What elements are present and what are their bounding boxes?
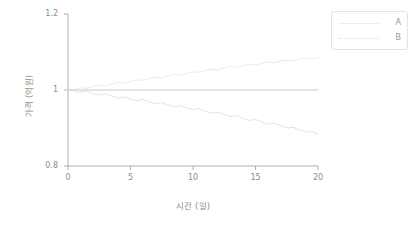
legend-label-b: B bbox=[396, 33, 402, 42]
x-tick-label: 15 bbox=[244, 173, 268, 182]
legend-line-sample-b bbox=[339, 38, 379, 41]
y-axis-label: 가격 (억원) bbox=[22, 51, 34, 141]
legend-item-b[interactable]: B bbox=[332, 32, 409, 46]
y-tick-label: 1 bbox=[28, 85, 58, 94]
y-tick-label: 0.8 bbox=[28, 161, 58, 170]
y-tick-label: 1.2 bbox=[28, 9, 58, 18]
chart-series-lines bbox=[68, 58, 318, 134]
x-tick-label: 0 bbox=[56, 173, 80, 182]
x-tick-label: 5 bbox=[119, 173, 143, 182]
y-axis-ticks bbox=[64, 14, 68, 166]
x-axis-ticks bbox=[68, 166, 318, 170]
legend-line-sample-a bbox=[339, 23, 379, 26]
chart-figure: 가격 (억원) 시간 (일) 1.210.8 05101520 A B bbox=[0, 0, 418, 230]
series-line-B bbox=[68, 90, 318, 134]
chart-legend: A B bbox=[331, 11, 408, 50]
legend-item-a[interactable]: A bbox=[332, 17, 409, 31]
x-tick-label: 10 bbox=[181, 173, 205, 182]
x-tick-label: 20 bbox=[306, 173, 330, 182]
series-line-A bbox=[68, 58, 318, 90]
legend-label-a: A bbox=[396, 18, 401, 27]
x-axis-label: 시간 (일) bbox=[118, 199, 268, 211]
